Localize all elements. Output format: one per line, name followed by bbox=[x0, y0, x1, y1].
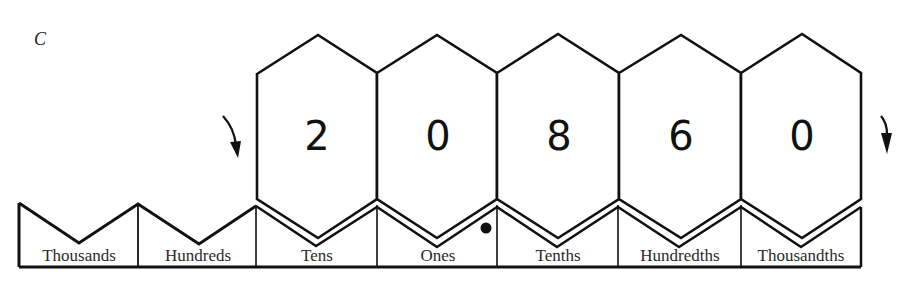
label-hundredths: Hundredths bbox=[640, 246, 719, 265]
digit-hundredths: 6 bbox=[668, 113, 693, 159]
label-thousands: Thousands bbox=[42, 246, 116, 265]
diagram-canvas: C bbox=[0, 0, 915, 284]
label-hundreds: Hundreds bbox=[165, 246, 231, 265]
digit-thousandths: 0 bbox=[789, 113, 814, 159]
place-labels: Thousands Hundreds Tens Ones Tenths Hund… bbox=[42, 246, 844, 265]
label-tens: Tens bbox=[301, 246, 333, 265]
label-thousandths: Thousandths bbox=[758, 246, 845, 265]
left-arrow-icon bbox=[223, 116, 241, 158]
label-tenths: Tenths bbox=[535, 246, 580, 265]
digit-tens: 2 bbox=[304, 113, 329, 159]
figure-caption-letter: C bbox=[34, 29, 47, 49]
label-ones: Ones bbox=[421, 246, 456, 265]
decimal-point bbox=[481, 223, 492, 234]
place-value-diagram: C bbox=[0, 0, 915, 284]
digit-ones: 0 bbox=[425, 113, 450, 159]
right-arrow-icon bbox=[881, 116, 892, 154]
digit-tenths: 8 bbox=[546, 113, 571, 159]
